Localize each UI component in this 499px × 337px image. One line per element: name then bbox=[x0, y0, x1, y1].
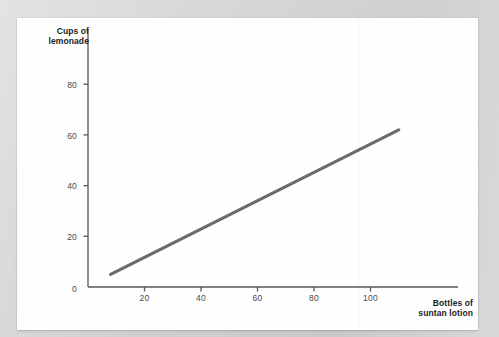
y-tick-marks bbox=[84, 84, 89, 236]
y-tick-label-20: 20 bbox=[51, 232, 77, 242]
y-axis-title: Cups of lemonade bbox=[21, 26, 89, 47]
x-tick-label-20: 20 bbox=[132, 293, 158, 303]
chart-canvas bbox=[17, 18, 478, 330]
y-tick-label-80: 80 bbox=[51, 80, 77, 90]
x-tick-label-100: 100 bbox=[358, 293, 384, 303]
x-tick-marks bbox=[145, 287, 371, 292]
x-tick-label-80: 80 bbox=[301, 293, 327, 303]
y-tick-label-60: 60 bbox=[51, 131, 77, 141]
y-tick-label-0: 0 bbox=[51, 284, 77, 294]
line-chart-figure: Cups of lemonade Bottles of suntan lotio… bbox=[17, 18, 478, 330]
paper-sheet: Cups of lemonade Bottles of suntan lotio… bbox=[17, 18, 478, 330]
series-trend-line bbox=[111, 130, 399, 274]
x-tick-label-40: 40 bbox=[188, 293, 214, 303]
x-tick-label-60: 60 bbox=[245, 293, 271, 303]
x-axis-title: Bottles of suntan lotion bbox=[369, 298, 473, 319]
y-tick-label-40: 40 bbox=[51, 181, 77, 191]
